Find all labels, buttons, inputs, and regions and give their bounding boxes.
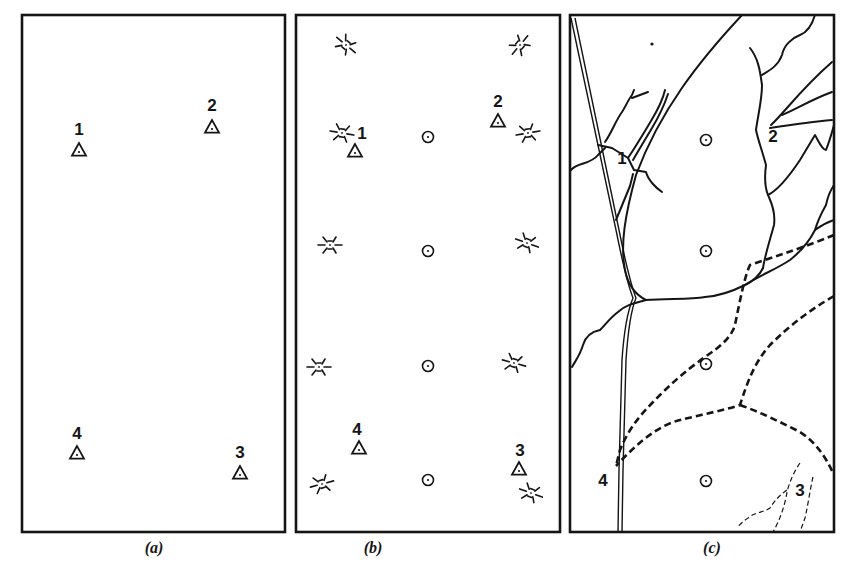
survey-control-star-icon — [308, 473, 335, 495]
triangle-icon — [70, 446, 84, 459]
center-dot — [76, 454, 78, 456]
triangle-icon — [233, 466, 247, 479]
triangle-marker-3: 3 — [512, 441, 526, 475]
thin-stream-3c — [737, 490, 787, 527]
node-label-1: 1 — [617, 149, 626, 168]
circle-dot-marker — [423, 246, 434, 257]
center-dot — [518, 470, 520, 472]
survey-control-star-icon — [329, 123, 355, 143]
node-label-3: 3 — [795, 481, 804, 500]
stream-2-branch-c — [770, 120, 832, 128]
center-dot — [239, 474, 241, 476]
marker-label: 3 — [235, 443, 244, 462]
stream-west-from-junction — [572, 300, 646, 367]
center-dot — [211, 128, 213, 130]
center-dot — [427, 479, 429, 481]
triangle-marker-2: 2 — [205, 96, 219, 133]
panel-c-frame — [570, 15, 834, 532]
center-dot — [705, 250, 707, 252]
panel-b-triangle-markers: 1243 — [348, 92, 526, 475]
stream-2-branch-b — [782, 92, 832, 115]
center-dot — [354, 152, 356, 154]
stream-node1-upper-b — [633, 94, 668, 160]
survey-control-star-icon — [307, 359, 331, 375]
triangle-marker-4: 4 — [352, 420, 366, 454]
marker-label: 2 — [207, 96, 216, 115]
triangle-icon — [512, 462, 526, 475]
center-dot — [705, 139, 707, 141]
panel-c-node-labels: 1243 — [598, 127, 804, 500]
survey-control-star-icon — [332, 31, 361, 59]
marker-label: 4 — [352, 420, 362, 439]
panel-b-caption: (b) — [364, 539, 383, 557]
marker-label: 4 — [72, 424, 82, 443]
survey-control-star-icon — [506, 31, 534, 60]
triangle-icon — [348, 144, 362, 157]
node-label-2: 2 — [768, 127, 777, 146]
triangle-marker-1: 1 — [72, 120, 86, 156]
triangle-icon — [205, 120, 219, 133]
panel-c: 1243 (c) — [570, 15, 834, 557]
stream-node1-upper — [605, 90, 665, 158]
survey-control-star-icon — [513, 231, 541, 254]
panel-a-triangle-markers: 1243 — [70, 96, 247, 479]
panel-b: 1243 (b) — [296, 15, 560, 557]
marker-label: 1 — [357, 124, 366, 143]
triangle-marker-2: 2 — [491, 92, 505, 127]
three-panel-diagram: 1243 (a) 1243 (b) — [0, 0, 853, 577]
survey-control-star-icon — [500, 352, 527, 374]
stream-east-lower — [745, 185, 834, 285]
stream-2-main — [750, 48, 774, 268]
triangle-marker-4: 4 — [70, 424, 84, 459]
panel-a-caption: (a) — [145, 539, 164, 557]
triangle-marker-3: 3 — [233, 443, 247, 479]
panel-b-circle-markers — [423, 132, 434, 486]
stream-2-branch-a — [771, 62, 832, 125]
stream-2-lower — [768, 125, 834, 195]
center-dot — [497, 122, 499, 124]
ridge-line-lower — [740, 405, 834, 475]
survey-control-star-icon — [515, 123, 541, 143]
panel-c-speck-dot — [650, 42, 653, 45]
panel-c-circle-markers — [701, 135, 712, 487]
center-dot — [78, 151, 80, 153]
marker-label: 2 — [493, 92, 502, 111]
center-dot — [427, 365, 429, 367]
marker-label: 1 — [74, 120, 83, 139]
circle-dot-marker — [701, 476, 712, 487]
triangle-icon — [352, 441, 366, 454]
circle-dot-marker — [701, 246, 712, 257]
center-dot — [705, 480, 707, 482]
stream-main-curve — [623, 15, 742, 300]
center-dot — [705, 363, 707, 365]
ridge-line-mid — [616, 296, 834, 466]
circle-dot-marker — [701, 359, 712, 370]
marker-label: 3 — [515, 441, 524, 460]
triangle-icon — [72, 143, 86, 156]
panel-a: 1243 (a) — [22, 15, 285, 557]
panel-b-control-point-stars — [307, 31, 545, 505]
survey-control-star-icon — [517, 481, 545, 504]
stream-2-top — [762, 15, 815, 75]
center-dot — [358, 449, 360, 451]
triangle-marker-1: 1 — [348, 124, 367, 157]
node-label-4: 4 — [598, 471, 608, 490]
panel-c-caption: (c) — [703, 539, 721, 557]
survey-control-star-icon — [318, 237, 342, 253]
panel-a-frame — [22, 15, 285, 532]
circle-dot-marker — [701, 135, 712, 146]
circle-dot-marker — [423, 475, 434, 486]
center-dot — [427, 136, 429, 138]
triangle-icon — [491, 114, 505, 127]
panel-c-map-lines — [571, 15, 834, 532]
circle-dot-marker — [423, 132, 434, 143]
circle-dot-marker — [423, 361, 434, 372]
center-dot — [427, 250, 429, 252]
